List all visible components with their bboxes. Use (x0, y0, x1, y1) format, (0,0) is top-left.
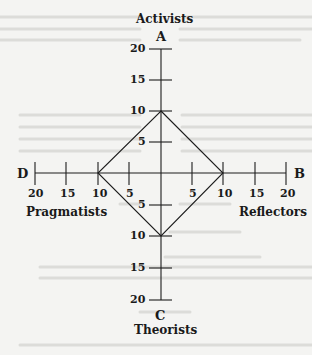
axis-name-activists: Activists (136, 13, 193, 25)
tick-label-top-15: 15 (130, 74, 145, 85)
tick-label-right-15: 15 (249, 188, 264, 199)
tick-label-bottom-10: 10 (130, 230, 145, 241)
tick-label-bottom-5: 5 (138, 199, 146, 210)
tick-label-top-5: 5 (138, 136, 146, 147)
tick-label-right-10: 10 (217, 188, 232, 199)
tick-label-left-15: 15 (60, 188, 75, 199)
tick-label-left-5: 5 (126, 188, 134, 199)
tick-label-bottom-20: 20 (130, 294, 145, 305)
axis-letter-a: A (156, 30, 166, 43)
axis-name-theorists: Theorists (134, 324, 197, 336)
axis-letter-c: C (155, 309, 165, 322)
scanned-page: Activists A D B Pragmatists Reflectors C… (0, 0, 312, 355)
axis-name-pragmatists: Pragmatists (26, 206, 107, 218)
axis-letter-b: B (294, 167, 305, 180)
axis-name-reflectors: Reflectors (239, 206, 307, 218)
tick-label-top-20: 20 (130, 43, 145, 54)
tick-label-bottom-15: 15 (130, 262, 145, 273)
tick-label-right-5: 5 (189, 188, 197, 199)
axis-letter-d: D (17, 167, 28, 180)
tick-label-top-10: 10 (130, 105, 145, 116)
tick-label-left-20: 20 (28, 188, 43, 199)
tick-label-right-20: 20 (280, 188, 295, 199)
tick-label-left-10: 10 (92, 188, 107, 199)
quadrant-diagram (0, 0, 312, 355)
